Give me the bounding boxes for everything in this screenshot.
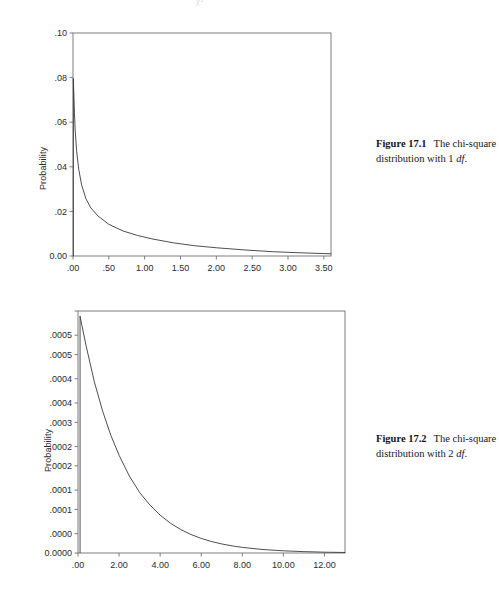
chart-1-x-tick-label: 3.00	[279, 263, 297, 273]
figure-1-caption: Figure 17.1The chi-square distribution w…	[376, 136, 499, 166]
chart-1-y-tick-label: .06	[54, 117, 67, 127]
chart-2-y-tick-label: .0001	[49, 485, 72, 495]
chart-2-y-tick-label: .0004	[49, 398, 72, 408]
chart-1-x-tick-label: 1.50	[172, 263, 190, 273]
figure-1-caption-label: Figure 17.1	[376, 138, 427, 149]
chart-2-y-tick-label: .0005	[49, 330, 72, 340]
chart-1-x-tick-label: 3.50	[315, 263, 333, 273]
chart-1-plot-area: 0.00.02.04.06.08.10.00.501.001.502.002.5…	[0, 18, 360, 283]
chart-2-y-tick-label: .0003	[49, 418, 72, 428]
figure-2-caption-label: Figure 17.2	[376, 433, 427, 444]
chart-2-plot-area: 0.0000.0000.0001.0001.0002.0002.0003.000…	[0, 296, 360, 586]
chart-1-y-tick-label: .08	[54, 73, 67, 83]
chart-2-y-tick-label: .0000	[49, 529, 72, 539]
chart-2-y-axis-title: Probability	[43, 429, 53, 472]
chart-1-x-tick-label: 2.50	[243, 263, 261, 273]
chart-1-y-axis-title: Probability	[38, 147, 48, 190]
chart-1-y-tick-label: .02	[54, 207, 67, 217]
chart-2-y-tick-label: .0005	[49, 350, 72, 360]
chart-2-svg: 0.0000.0000.0001.0001.0002.0002.0003.000…	[0, 296, 360, 586]
chart-1-y-tick-label: 0.00	[49, 251, 67, 261]
chart-2-y-tick-label: 0.0000	[44, 548, 72, 558]
chart-1-x-tick-label: .50	[103, 263, 116, 273]
chart-2-x-tick-label: 4.00	[151, 560, 169, 570]
chart-2-x-tick-label: 12.00	[313, 560, 336, 570]
figure-2-caption-period: .	[464, 448, 467, 459]
chart-1-svg: 0.00.02.04.06.08.10.00.501.001.502.002.5…	[0, 18, 360, 283]
chart-1-x-tick-label: 2.00	[208, 263, 226, 273]
chart-2-x-tick-label: 2.00	[110, 560, 128, 570]
chart-2-x-tick-label: 8.00	[234, 560, 252, 570]
page-header-mark: χ²	[196, 0, 226, 6]
chart-2-x-tick-label: .00	[72, 560, 85, 570]
chart-2-y-tick-label: .0001	[49, 505, 72, 515]
chart-2-y-tick-label: .0004	[49, 374, 72, 384]
chart-1-series-line	[73, 79, 331, 254]
chart-1-x-tick-label: .00	[67, 263, 80, 273]
chart-1-y-tick-label: .04	[54, 162, 67, 172]
chart-1-y-tick-label: .10	[54, 28, 67, 38]
chart-2-x-tick-label: 6.00	[192, 560, 210, 570]
figure-2-caption: Figure 17.2The chi-square distribution w…	[376, 431, 499, 461]
chart-2-series-line	[80, 316, 345, 552]
figure-1-caption-period: .	[464, 153, 467, 164]
chart-1-x-tick-label: 1.00	[136, 263, 154, 273]
chart-2-x-tick-label: 10.00	[272, 560, 295, 570]
